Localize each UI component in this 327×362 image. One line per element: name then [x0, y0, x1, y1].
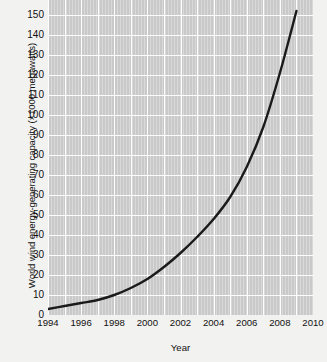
- data-series-svg: [48, 0, 313, 315]
- wind-capacity-line-chart: World wind energy-generating capacity (×…: [0, 0, 327, 362]
- y-axis-tick-label: 10: [4, 290, 44, 300]
- y-axis-tick-label: 20: [4, 270, 44, 280]
- series-line-path: [48, 11, 296, 309]
- y-axis-tick-label: 90: [4, 130, 44, 140]
- y-axis-tick-label: 150: [4, 10, 44, 20]
- y-axis-tick-label: 50: [4, 210, 44, 220]
- y-axis-tick-label: 120: [4, 70, 44, 80]
- y-axis-tick-label: 30: [4, 250, 44, 260]
- y-axis-tick-label: 110: [4, 90, 44, 100]
- y-axis-tick-label: 40: [4, 230, 44, 240]
- y-axis-tick-label: 70: [4, 170, 44, 180]
- plot-area: [48, 0, 313, 315]
- y-axis-tick-label: 140: [4, 30, 44, 40]
- y-axis-tick-label: 60: [4, 190, 44, 200]
- y-axis-tick-label: 100: [4, 110, 44, 120]
- x-axis-title: Year: [48, 342, 313, 353]
- y-axis-tick-label: 80: [4, 150, 44, 160]
- x-axis-tick-label: 2010: [293, 318, 327, 328]
- y-axis-tick-label: 130: [4, 50, 44, 60]
